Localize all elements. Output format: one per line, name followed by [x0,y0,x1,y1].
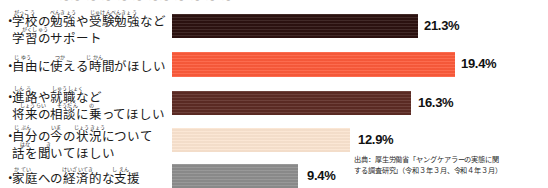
furigana: き [46,140,51,147]
furigana: つか [55,53,65,60]
label-line-1: か てい けいざいてき し えん ・家庭への経済的な支援 [4,165,140,182]
category-label: か てい けいざいてき し えん ・家庭への経済的な支援 [4,165,140,182]
furigana: いま [51,123,61,130]
bar-2 [172,52,455,77]
source-line-2: する調査研究」（令和３年３月、令和４年３月） [354,165,544,176]
category-label: しん ろ しゅうしょく ・進路や就職など しょうらい そうだん の 将来の相談に… [4,84,165,118]
furigana: べんきょう [50,8,76,15]
furigana: しょうらい [20,101,46,108]
source-line-1: 出典：厚生労働省「ヤングケアラーの実態に関 [354,154,544,165]
category-label: じ ゆう つか じ かん ・自由に使える時間がほしい [4,53,166,70]
label-line-1: しん ろ しゅうしょく ・進路や就職など [4,84,165,101]
furigana-line-2: しょうらい そうだん の [4,101,165,108]
chart-row: がっこう べんきょう じゅけんべんきょう ・学校の勉強や受験勉強など がくしゅう… [0,7,548,48]
furigana: し えん [112,165,129,172]
clipped-top-text: 〜〜 〜 〜 〜 〜 〜〜 〜 〜 〜 〜 [60,0,233,5]
label-line-2: しょうらい そうだん の 将来の相談に乗ってほしい [4,101,165,118]
bullet-marker: ・ [4,60,12,74]
label-text: ・自由に使える時間がほしい [4,60,166,74]
furigana-line-2: はな き [4,140,153,147]
bar-5 [172,164,298,188]
label-main-1: 自由に使える時間がほしい [12,59,166,74]
furigana: じ ぶん [14,123,31,130]
furigana-line-2: がくしゅう [4,25,166,32]
label-main-2: 将来の相談に乗ってほしい [12,107,165,122]
value-label-3: 16.3% [418,95,453,110]
furigana: じゅけんべんきょう [90,8,137,15]
furigana: しん ろ [14,84,31,91]
value-label-5: 9.4% [307,168,335,183]
bar-4 [172,128,350,152]
furigana: じょうきょう [74,123,105,130]
label-line-2: がくしゅう 学習のサポート [4,25,166,42]
label-line-1: じ ゆう つか じ かん ・自由に使える時間がほしい [4,53,166,70]
bar-texture [172,128,350,152]
furigana: か てい [14,165,31,172]
chart-row: じ ゆう つか じ かん ・自由に使える時間がほしい 19.4% [0,48,548,84]
furigana-line-1: か てい けいざいてき し えん [4,165,140,172]
furigana: じ かん [86,53,103,60]
furigana-line-1: じ ゆう つか じ かん [4,53,166,60]
source-citation: 出典：厚生労働省「ヤングケアラーの実態に関 する調査研究」（令和３年３月、令和４… [354,154,544,176]
category-label: じ ぶん いま じょうきょう ・自分の今の状況について はな き 話を聞いてほし… [4,123,153,157]
label-main-2: 学習のサポート [12,31,102,46]
furigana-line-1: がっこう べんきょう じゅけんべんきょう [4,8,166,15]
label-line-2: はな き 話を聞いてほしい [4,140,153,157]
furigana-line-1: じ ぶん いま じょうきょう [4,123,153,130]
label-text: 話を聞いてほしい [4,147,153,161]
value-label-1: 21.3% [424,18,459,33]
label-line-1: がっこう べんきょう じゅけんべんきょう ・学校の勉強や受験勉強など [4,8,166,25]
clipped-top-edge-text: 〜〜 〜 〜 〜 〜 〜〜 〜 〜 〜 〜 [0,0,548,7]
furigana: けいざいてき [62,165,93,172]
bar-1 [172,14,418,38]
label-text: ・家庭への経済的な支援 [4,172,140,186]
label-text: 将来の相談に乗ってほしい [4,108,165,122]
bar-texture [172,164,298,188]
bullet-marker: ・ [4,172,12,186]
value-label-4: 12.9% [358,132,393,147]
label-line-1: じ ぶん いま じょうきょう ・自分の今の状況について [4,123,153,140]
young-carer-support-needs-bar-chart: 〜〜 〜 〜 〜 〜 〜〜 〜 〜 〜 〜 がっこう べんきょう じゅけんべんき… [0,0,548,188]
furigana-line-1: しん ろ しゅうしょく [4,84,165,91]
category-label: がっこう べんきょう じゅけんべんきょう ・学校の勉強や受験勉強など がくしゅう… [4,8,166,42]
furigana: そうだん [57,101,78,108]
label-main-2: 話を聞いてほしい [12,146,114,161]
bar-3 [172,91,411,115]
furigana: の [89,101,94,108]
label-text: 学習のサポート [4,32,166,46]
value-label-2: 19.4% [461,56,496,71]
furigana: じ ゆう [14,53,31,60]
chart-row: しん ろ しゅうしょく ・進路や就職など しょうらい そうだん の 将来の相談に… [0,84,548,122]
furigana: がっこう [14,8,35,15]
label-main-1: 家庭への経済的な支援 [12,171,140,186]
bar-texture [172,91,411,115]
bar-texture [172,14,418,38]
bar-texture [172,52,455,77]
furigana: しゅうしょく [52,84,83,91]
furigana: はな [20,140,30,147]
furigana: がくしゅう [22,25,48,32]
